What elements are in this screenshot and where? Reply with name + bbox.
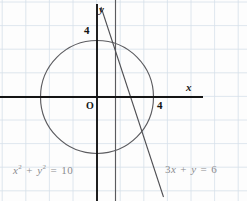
line-eq-equals: = [200,163,209,175]
circle-eq-x-exponent: 2 [18,163,22,171]
line-eq-value: 6 [211,163,217,175]
origin-label: O [86,101,94,111]
circle-eq-equals: = [49,164,58,176]
graph-figure: 4 4 O x y x2 + y2 = 10 3x + y = 6 [0,0,247,201]
line-equation-label: 3x + y = 6 [165,164,217,175]
circle-eq-plus: + [25,164,34,176]
circle-eq-value: 10 [61,164,73,176]
line-eq-plus: + [179,163,188,175]
y-axis-label: y [99,4,104,15]
x-axis-tick-label-4: 4 [157,100,163,111]
line-eq-x: x [171,163,176,175]
circle-equation-label: x2 + y2 = 10 [13,164,73,176]
y-axis-tick-label-4: 4 [84,25,90,36]
x-axis-label: x [186,82,192,93]
circle-eq-y-exponent: 2 [42,163,46,171]
line-eq-y: y [191,163,196,175]
